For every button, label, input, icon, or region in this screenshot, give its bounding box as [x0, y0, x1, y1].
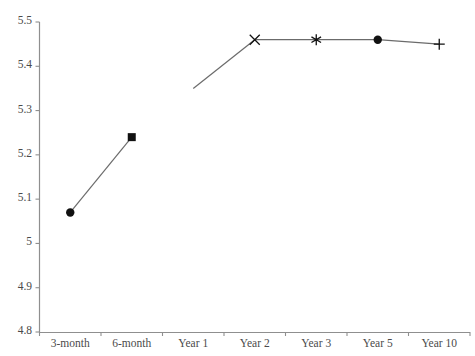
data-point-marker-plus: [434, 39, 445, 50]
line-chart: 5.55.45.35.25.154.94.8 3-month6-monthYea…: [0, 0, 475, 356]
series-line-segment: [378, 40, 440, 44]
x-tick-label: 3-month: [40, 337, 102, 349]
data-markers: [66, 34, 445, 216]
y-tick-label: 5: [0, 235, 32, 247]
axes: [40, 22, 471, 333]
series-line-segment: [193, 40, 255, 89]
y-tick-label: 4.8: [0, 324, 32, 336]
data-series: [70, 40, 439, 213]
y-tick-label: 5.3: [0, 103, 32, 115]
x-tick-label: Year 5: [347, 337, 409, 349]
x-tick-label: Year 1: [163, 337, 225, 349]
y-tick-label: 5.4: [0, 58, 32, 70]
y-tick-label: 4.9: [0, 280, 32, 292]
x-tick-label: Year 3: [286, 337, 348, 349]
y-tick-label: 5.2: [0, 147, 32, 159]
x-tick-label: Year 2: [224, 337, 286, 349]
x-tick-label: 6-month: [101, 337, 163, 349]
x-tick-label: Year 10: [409, 337, 471, 349]
series-line-segment: [70, 137, 132, 212]
plot-area: [0, 0, 475, 356]
data-point-marker-filled-circle: [374, 36, 382, 44]
y-tick-label: 5.1: [0, 191, 32, 203]
data-point-marker-filled-square: [128, 133, 136, 141]
y-tick-label: 5.5: [0, 14, 32, 26]
data-point-marker-filled-circle: [66, 208, 74, 216]
